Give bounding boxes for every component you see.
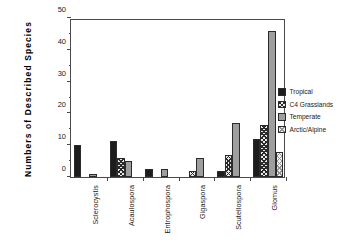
y-axis-tick bbox=[67, 17, 71, 18]
y-axis-tick-label: 20 bbox=[58, 100, 66, 109]
legend-swatch bbox=[278, 126, 286, 134]
legend-item: Tropical bbox=[278, 86, 333, 98]
y-axis-tick-label: 50 bbox=[58, 5, 66, 14]
bar bbox=[260, 125, 268, 177]
y-axis-tick-label: 0 bbox=[62, 164, 66, 173]
legend-swatch bbox=[278, 101, 286, 109]
x-axis-category-label: Entrophospora bbox=[163, 185, 172, 233]
legend-label: Arctic/Alpine bbox=[290, 126, 327, 133]
bar bbox=[232, 123, 240, 177]
legend-label: C4 Grasslands bbox=[290, 101, 334, 108]
x-axis-category-label: Scutellospora bbox=[234, 185, 243, 230]
x-axis-tick bbox=[107, 177, 108, 181]
bar-group bbox=[71, 20, 107, 177]
y-axis-title: Numbers of Described Species bbox=[23, 19, 33, 179]
legend-item: C4 Grasslands bbox=[278, 99, 333, 111]
bar bbox=[189, 171, 197, 177]
bar bbox=[217, 171, 225, 177]
bar-group bbox=[143, 20, 179, 177]
bar bbox=[268, 31, 276, 177]
x-axis-category-label: Glomus bbox=[270, 185, 279, 210]
y-axis-tick-label: 40 bbox=[58, 36, 66, 45]
legend-label: Temperate bbox=[290, 113, 321, 120]
legend-item: Temperate bbox=[278, 111, 333, 123]
x-axis-category-label: Gigaspora bbox=[198, 185, 207, 219]
bar bbox=[253, 139, 261, 177]
x-axis-tick bbox=[250, 177, 251, 181]
bar bbox=[161, 169, 169, 177]
plot-area: 01020304050 bbox=[70, 19, 285, 178]
x-axis-tick bbox=[214, 177, 215, 181]
bar-group bbox=[179, 20, 215, 177]
x-axis-tick bbox=[143, 177, 144, 181]
bar-chart-figure: Numbers of Described Species 01020304050… bbox=[0, 0, 350, 244]
bar bbox=[110, 141, 118, 177]
bar bbox=[196, 158, 204, 177]
legend-swatch bbox=[278, 88, 286, 96]
bar bbox=[145, 169, 153, 177]
bar-group bbox=[107, 20, 143, 177]
legend-label: Tropical bbox=[290, 88, 313, 95]
bar bbox=[125, 161, 133, 177]
bar bbox=[89, 174, 97, 177]
x-axis-tick bbox=[179, 177, 180, 181]
bar bbox=[117, 158, 125, 177]
bar bbox=[276, 152, 284, 177]
x-axis-category-label: Acaulospora bbox=[127, 185, 136, 226]
y-axis-tick-label: 30 bbox=[58, 68, 66, 77]
y-axis-tick-label: 10 bbox=[58, 132, 66, 141]
x-axis-category-label: Sclerocystis bbox=[91, 185, 100, 225]
bar-group bbox=[214, 20, 250, 177]
legend-swatch bbox=[278, 113, 286, 121]
bar bbox=[74, 145, 82, 177]
legend-item: Arctic/Alpine bbox=[278, 124, 333, 136]
bar bbox=[225, 155, 233, 177]
x-axis-tick bbox=[286, 177, 287, 181]
chart-legend: TropicalC4 GrasslandsTemperateArctic/Alp… bbox=[278, 86, 333, 136]
